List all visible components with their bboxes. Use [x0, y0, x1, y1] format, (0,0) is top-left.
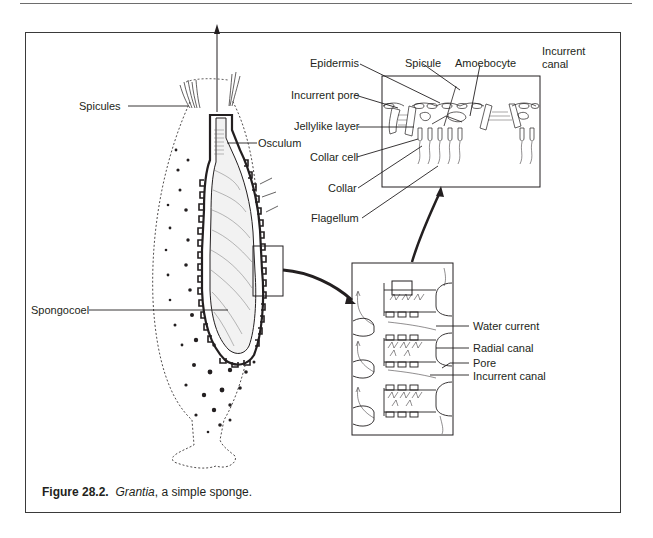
figure-genus: Grantia	[115, 485, 154, 499]
label-incurrent-pore: Incurrent pore	[291, 89, 359, 101]
figure-caption: Figure 28.2. Grantia, a simple sponge.	[42, 485, 252, 499]
label-water-current: Water current	[473, 320, 539, 332]
label-incurrent-canal: Incurrent canal	[473, 370, 546, 382]
label-epidermis: Epidermis	[310, 57, 359, 69]
label-incurrent-canal-top-line2: canal	[542, 58, 568, 70]
label-radial-canal: Radial canal	[473, 342, 534, 354]
label-osculum: Osculum	[258, 137, 301, 149]
label-collar-cell: Collar cell	[310, 151, 358, 163]
label-flagellum: Flagellum	[311, 212, 359, 224]
label-collar: Collar	[328, 182, 357, 194]
leader-lines	[89, 64, 480, 375]
label-incurrent-canal-top-line1: Incurrent	[542, 45, 585, 57]
canal-section-inset	[352, 263, 453, 435]
label-pore: Pore	[473, 357, 496, 369]
label-spicule: Spicule	[405, 57, 441, 69]
label-spongocoel: Spongocoel	[31, 304, 89, 316]
figure-caption-text: , a simple sponge.	[155, 485, 252, 499]
cell-detail-inset	[382, 76, 540, 262]
sponge-diagram	[0, 0, 653, 538]
figure-number: Figure 28.2.	[42, 485, 109, 499]
label-spicules: Spicules	[79, 100, 121, 112]
label-jellylike-layer: Jellylike layer	[294, 120, 359, 132]
label-amoebocyte: Amoebocyte	[455, 57, 516, 69]
